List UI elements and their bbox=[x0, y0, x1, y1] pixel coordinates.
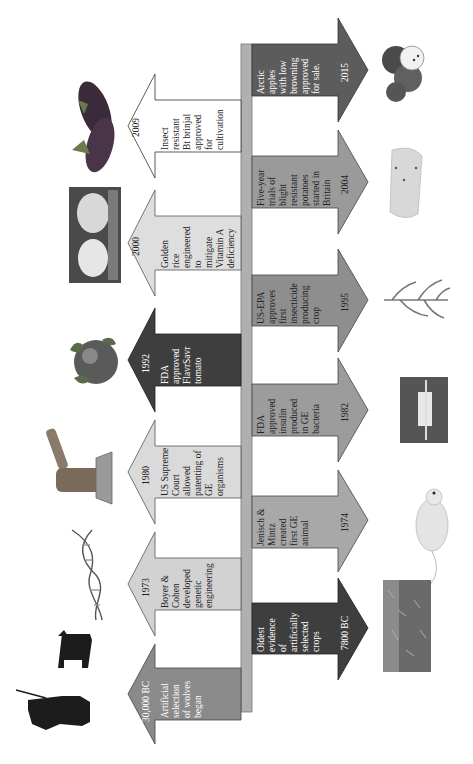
event-text-2015: Arctic apples with low browning approved… bbox=[256, 58, 322, 94]
timeline-figure: 2009 Insect resistant Bt brinjal approve… bbox=[0, 0, 473, 764]
mouse-icon bbox=[416, 489, 448, 585]
event-text-1980: US Supreme Court allowed patenting of GE… bbox=[160, 448, 226, 496]
event-text-1982: FDA approved insulin produced in GE bact… bbox=[256, 399, 322, 434]
year-label-1980: 1980 bbox=[141, 466, 152, 485]
corn-plant-icon bbox=[384, 280, 450, 318]
brinjal-eggplant-icon bbox=[72, 77, 120, 175]
event-text-7800bc: Oldest evidence of artificially selected… bbox=[256, 612, 322, 652]
wheat-field-icon bbox=[383, 580, 431, 672]
event-text-2000: Golden rice engineered to mitigate Vitam… bbox=[160, 226, 237, 268]
arctic-apples-icon bbox=[382, 46, 424, 102]
gavel-icon bbox=[45, 428, 112, 504]
event-text-2009: Insect resistant Bt brinjal approved for… bbox=[160, 109, 226, 150]
year-label-7800bc: 7800 BC bbox=[340, 616, 351, 650]
year-label-1973: 1973 bbox=[141, 578, 152, 597]
insulin-vial-icon bbox=[400, 377, 448, 443]
potato-slice-icon bbox=[390, 148, 422, 218]
event-text-1974: Jenisch & Mintz created first GE animal bbox=[256, 508, 311, 546]
hunter-wolf-silhouette-icon bbox=[16, 630, 92, 730]
dna-helix-icon bbox=[72, 530, 102, 620]
year-label-1974: 1974 bbox=[340, 513, 351, 532]
timeline-axis bbox=[241, 44, 252, 712]
year-label-1992: 1992 bbox=[141, 354, 152, 373]
event-text-1973: Boyer & Cohen developed genetic engineer… bbox=[160, 563, 215, 608]
year-label-1995: 1995 bbox=[340, 293, 351, 312]
event-text-1995: US-EPA approves first insecticide produc… bbox=[256, 283, 322, 324]
year-label-2009: 2009 bbox=[131, 118, 142, 137]
event-text-1992: FDA approved FlavrSavr tomato bbox=[160, 347, 204, 384]
golden-rice-icon bbox=[69, 187, 121, 283]
year-label-1982: 1982 bbox=[340, 403, 351, 422]
year-label-2015: 2015 bbox=[340, 63, 351, 82]
tomato-icon bbox=[70, 338, 118, 384]
year-label-30000bc: 30,000 BC bbox=[141, 681, 152, 722]
year-label-2004: 2004 bbox=[340, 175, 351, 194]
year-label-2000: 2000 bbox=[131, 237, 142, 256]
timeline-shapes bbox=[0, 0, 473, 764]
event-text-30000bc: Artificial selection of wolves began bbox=[160, 681, 204, 718]
event-text-2004: Five-year trials of blight resistant pot… bbox=[256, 170, 333, 206]
